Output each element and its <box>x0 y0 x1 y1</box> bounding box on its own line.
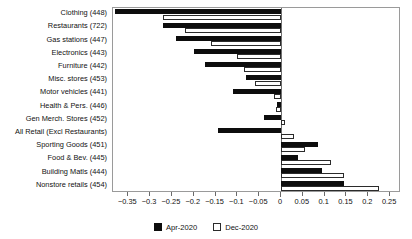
x-tick-label: 0 <box>278 197 282 206</box>
bar-dec-2020 <box>281 120 285 125</box>
x-tick <box>302 192 303 196</box>
legend-swatch-icon <box>154 223 162 231</box>
x-tick-label: −0.25 <box>162 197 181 206</box>
bar-dec-2020 <box>274 94 281 99</box>
x-tick-label: 0.15 <box>338 197 352 206</box>
bar-dec-2020 <box>281 134 294 139</box>
bar-dec-2020 <box>255 81 281 86</box>
x-tick-label: −0.35 <box>118 197 137 206</box>
legend-label: Dec-2020 <box>225 223 258 232</box>
x-tick <box>345 192 346 196</box>
x-tick <box>236 192 237 196</box>
x-tick-label: −0.15 <box>205 197 224 206</box>
y-axis-label: Restaurants (722) <box>0 22 107 30</box>
x-axis-tick-labels: −0.35−0.3−0.25−0.2−0.15−0.1−0.0500.050.1… <box>112 197 400 209</box>
bar-dec-2020 <box>281 173 344 178</box>
y-axis-label: Electronics (443) <box>0 49 107 57</box>
bar-dec-2020 <box>211 41 281 46</box>
y-axis-label: Gen Merch. Stores (452) <box>0 115 107 123</box>
chart-legend: Apr-2020Dec-2020 <box>0 219 412 235</box>
bar-apr-2020 <box>218 128 281 133</box>
y-axis-label: Gas stations (447) <box>0 36 107 44</box>
x-tick-label: −0.1 <box>229 197 244 206</box>
x-tick <box>324 192 325 196</box>
x-tick <box>193 192 194 196</box>
y-axis-label: All Retail (Excl Restaurants) <box>0 128 107 136</box>
bar-dec-2020 <box>281 186 379 191</box>
bar-dec-2020 <box>276 107 281 112</box>
bar-apr-2020 <box>264 115 281 120</box>
y-axis-label: Clothing (448) <box>0 9 107 17</box>
plot-area <box>112 7 400 192</box>
x-tick-label: 0.1 <box>318 197 328 206</box>
x-tick <box>389 192 390 196</box>
bar-dec-2020 <box>244 67 281 72</box>
x-tick-label: −0.3 <box>142 197 157 206</box>
bar-dec-2020 <box>281 147 305 152</box>
y-axis-label: Furniture (442) <box>0 62 107 70</box>
bar-chart: Clothing (448)Restaurants (722)Gas stati… <box>0 0 412 239</box>
bar-dec-2020 <box>237 54 281 59</box>
x-tick <box>215 192 216 196</box>
y-axis-label: Nonstore retails (454) <box>0 181 107 189</box>
y-axis-label: Health & Pers. (446) <box>0 102 107 110</box>
y-axis-label: Building Matls (444) <box>0 168 107 176</box>
y-axis-label: Sporting Goods (451) <box>0 141 107 149</box>
x-tick <box>127 192 128 196</box>
legend-item-apr-2020[interactable]: Apr-2020 <box>154 223 197 232</box>
x-tick-label: 0.05 <box>295 197 309 206</box>
y-axis-category-labels: Clothing (448)Restaurants (722)Gas stati… <box>0 7 110 192</box>
x-tick <box>149 192 150 196</box>
y-axis-label: Food & Bev. (445) <box>0 154 107 162</box>
legend-label: Apr-2020 <box>166 223 197 232</box>
bar-dec-2020 <box>281 160 331 165</box>
bar-dec-2020 <box>185 28 281 33</box>
x-tick-label: −0.2 <box>185 197 200 206</box>
x-tick-label: 0.25 <box>382 197 396 206</box>
x-tick <box>367 192 368 196</box>
x-tick <box>258 192 259 196</box>
x-tick <box>171 192 172 196</box>
bar-dec-2020 <box>163 15 281 20</box>
y-axis-label: Motor vehicles (441) <box>0 88 107 96</box>
x-tick-label: −0.05 <box>249 197 268 206</box>
y-axis-label: Misc. stores (453) <box>0 75 107 83</box>
legend-item-dec-2020[interactable]: Dec-2020 <box>213 223 258 232</box>
legend-swatch-icon <box>213 223 221 231</box>
x-tick-label: 0.2 <box>362 197 372 206</box>
